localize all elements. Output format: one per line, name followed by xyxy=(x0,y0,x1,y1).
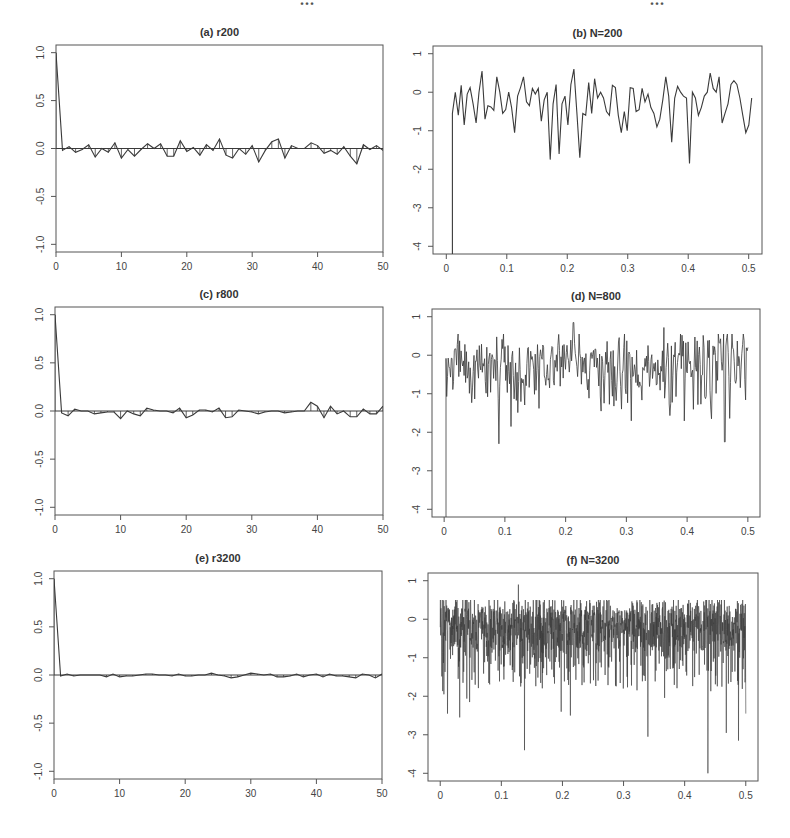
svg-text:0: 0 xyxy=(437,790,443,801)
svg-text:-1: -1 xyxy=(407,653,418,662)
svg-text:-3: -3 xyxy=(407,730,418,739)
svg-text:0.2: 0.2 xyxy=(555,790,569,801)
chart-title: (f) N=3200 xyxy=(567,554,620,566)
svg-text:0.1: 0.1 xyxy=(494,790,508,801)
svg-text:0.3: 0.3 xyxy=(617,790,631,801)
y-axis: -4-3-2-101 xyxy=(407,577,428,777)
data-series xyxy=(440,585,746,774)
svg-text:-2: -2 xyxy=(407,691,418,700)
svg-text:0.4: 0.4 xyxy=(678,790,692,801)
svg-text:0: 0 xyxy=(407,616,418,622)
svg-text:1: 1 xyxy=(407,577,418,583)
chart-svg: (f) N=320000.10.20.30.40.5-4-3-2-101 xyxy=(0,0,790,838)
panel-f-log-periodogram-n3200: (f) N=320000.10.20.30.40.5-4-3-2-101 xyxy=(0,0,790,838)
plot-frame xyxy=(428,573,758,781)
svg-text:-4: -4 xyxy=(407,768,418,777)
svg-text:0.5: 0.5 xyxy=(739,790,753,801)
x-axis: 00.10.20.30.40.5 xyxy=(437,781,753,801)
